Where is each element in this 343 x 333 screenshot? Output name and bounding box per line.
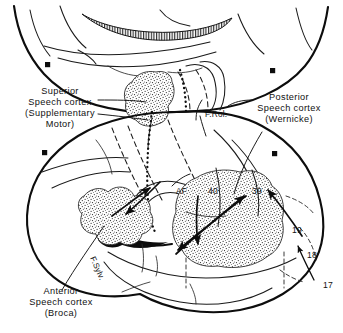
outline-marker-lateral-posterior: [272, 151, 277, 156]
wernicke-area-region: [173, 170, 284, 268]
label-anterior-speech-line1: Anterior: [44, 286, 79, 296]
label-posterior-speech-line3: (Wernicke): [265, 114, 313, 124]
label-anterior-speech-line3: (Broca): [45, 308, 78, 318]
label-posterior-speech-line2: Speech cortex: [257, 103, 320, 113]
outline-marker-upper-left: [45, 62, 50, 67]
label-area-39: 39: [252, 186, 262, 196]
brain-speech-diagram: Superior Speech cortex (Supplementary Mo…: [0, 0, 343, 333]
label-arcuate-fasciculus: AF: [176, 187, 187, 196]
label-superior-speech-line3: (Supplementary: [25, 108, 95, 118]
label-superior-speech-line1: Superior: [41, 86, 79, 96]
label-area-18: 18: [307, 250, 317, 260]
label-area-17: 17: [323, 280, 333, 290]
outline-marker-upper-right: [270, 68, 275, 73]
outline-marker-lateral-anterior: [42, 150, 47, 155]
label-area-19: 19: [292, 225, 302, 235]
label-superior-speech-line4: Motor): [46, 119, 75, 129]
label-anterior-speech-line2: Speech cortex: [29, 297, 92, 307]
label-area-40: 40: [208, 186, 218, 196]
diagram-canvas: Superior Speech cortex (Supplementary Mo…: [0, 0, 343, 333]
label-superior-speech-line2: Speech cortex: [28, 97, 91, 107]
label-posterior-speech-line1: Posterior: [269, 92, 309, 102]
label-rolandic-fissure: F.Rol.: [205, 110, 227, 119]
